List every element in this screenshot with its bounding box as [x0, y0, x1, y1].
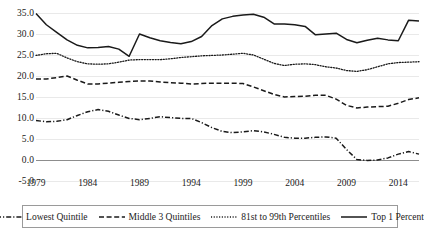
- series-line-top-1-percent: [36, 13, 419, 56]
- legend-label: Top 1 Percent: [371, 212, 424, 222]
- legend-item[interactable]: Middle 3 Quintiles: [99, 212, 201, 222]
- legend-item[interactable]: 81st to 99th Percentiles: [211, 212, 330, 222]
- series-line-lowest-quintile: [36, 110, 419, 161]
- chart-legend: Lowest QuintileMiddle 3 Quintiles81st to…: [22, 205, 398, 228]
- x-tick-label: 1979: [27, 178, 46, 188]
- legend-swatch-dotted: [211, 213, 237, 221]
- x-tick-label: 2009: [337, 178, 356, 188]
- x-tick-label: 1989: [130, 178, 149, 188]
- x-tick-label: 1994: [182, 178, 201, 188]
- series-line-81st-to-99th-percentiles: [36, 53, 419, 71]
- legend-swatch-dashed: [99, 213, 125, 221]
- plot-area: 35.0 30.0 25.0 20.0 15.0 10.0 5.0 0.0 -5…: [0, 0, 419, 196]
- legend-label: 81st to 99th Percentiles: [241, 212, 330, 222]
- legend-label: Lowest Quintile: [26, 212, 87, 222]
- legend-item[interactable]: Top 1 Percent: [341, 212, 424, 222]
- legend-swatch-dashdot: [0, 213, 22, 221]
- series-line-middle-3-quintiles: [36, 76, 419, 108]
- x-tick-label: 2014: [389, 178, 408, 188]
- x-tick-label: 1999: [234, 178, 253, 188]
- legend-swatch-solid: [341, 213, 367, 221]
- x-tick-label: 2004: [285, 178, 304, 188]
- data-series-group: [0, 0, 419, 196]
- x-tick-label: 1984: [78, 178, 97, 188]
- legend-label: Middle 3 Quintiles: [129, 212, 201, 222]
- legend-item[interactable]: Lowest Quintile: [0, 212, 88, 222]
